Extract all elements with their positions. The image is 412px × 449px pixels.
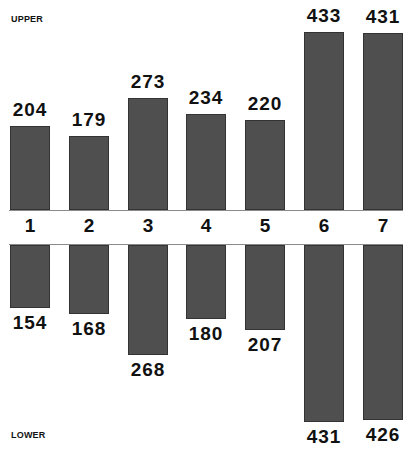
category-label: 7 [363,215,403,237]
upper-bar-2 [69,136,109,210]
lower-bar-2 [69,245,109,314]
lower-value-label: 168 [59,318,119,340]
upper-bar-3 [128,98,168,210]
category-label: 5 [245,215,285,237]
lower-value-label: 426 [353,424,412,446]
category-label: 3 [128,215,168,237]
lower-bar-5 [245,245,285,330]
upper-value-label: 179 [59,109,119,131]
lower-bar-1 [10,245,50,308]
upper-baseline [9,210,403,211]
lower-value-label: 207 [235,334,295,356]
lower-value-label: 180 [176,323,236,345]
lower-bar-6 [304,245,344,422]
upper-bar-6 [304,32,344,210]
upper-bar-7 [363,33,403,210]
lower-bar-7 [363,245,403,420]
lower-bar-3 [128,245,168,355]
category-label: 4 [186,215,226,237]
upper-bar-5 [245,120,285,210]
lower-value-label: 268 [118,359,178,381]
upper-value-label: 433 [294,5,354,27]
upper-value-label: 234 [176,87,236,109]
category-label: 2 [69,215,109,237]
upper-bar-4 [186,114,226,210]
category-label: 6 [304,215,344,237]
upper-value-label: 204 [0,99,60,121]
upper-value-label: 273 [118,71,178,93]
upper-bar-1 [10,126,50,210]
lower-value-label: 154 [0,312,60,334]
upper-value-label: 220 [235,93,295,115]
lower-bar-4 [186,245,226,319]
upper-series-label: UPPER [11,14,43,24]
upper-value-label: 431 [353,6,412,28]
lower-series-label: LOWER [11,430,46,440]
lower-value-label: 431 [294,426,354,448]
category-label: 1 [10,215,50,237]
